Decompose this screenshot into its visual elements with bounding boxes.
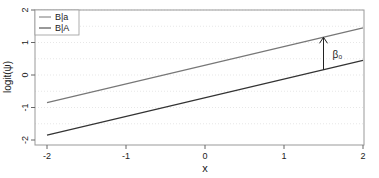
y-tick-label: 1	[20, 40, 30, 45]
x-axis: -2-1012	[43, 145, 366, 161]
y-tick-label: -1	[20, 103, 30, 111]
series-line	[47, 60, 363, 135]
beta0-label: β₀	[333, 49, 343, 60]
x-tick-label: 0	[202, 151, 207, 161]
y-tick-label: -2	[20, 136, 30, 144]
legend: B|a B|A	[35, 10, 79, 35]
legend-label-b-given-a: B|a	[55, 12, 68, 22]
x-tick-label: 2	[360, 151, 365, 161]
x-tick-label: 1	[281, 151, 286, 161]
y-tick-label: 2	[20, 7, 30, 12]
x-tick-label: -1	[122, 151, 130, 161]
series-line	[47, 28, 363, 103]
series-lines	[47, 28, 363, 135]
chart: -2-1012 -2-1012 β₀ x logit(ψ) B|a B|A	[0, 0, 379, 178]
y-axis: -2-1012	[20, 7, 35, 144]
y-tick-label: 0	[20, 72, 30, 77]
x-axis-label: x	[202, 162, 208, 174]
plot-area	[35, 10, 364, 145]
legend-label-b-given-A: B|A	[55, 23, 69, 33]
x-tick-label: -2	[43, 151, 51, 161]
y-axis-label: logit(ψ)	[2, 61, 13, 93]
